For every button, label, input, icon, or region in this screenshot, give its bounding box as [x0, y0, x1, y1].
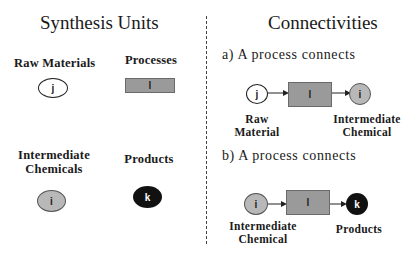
case-a-intermediate-node: i: [349, 83, 371, 105]
case-a-raw-material-label-line2: Material: [232, 126, 282, 139]
case-b-intermediate-label-line1: Intermediate: [226, 220, 300, 233]
synthesis-units-title: Synthesis Units: [40, 12, 159, 34]
case-b-products-label: Products: [334, 223, 384, 236]
case-a-process-node: l: [288, 82, 332, 107]
product-node: k: [133, 186, 162, 208]
raw-materials-label: Raw Materials: [14, 56, 88, 71]
case-a-arrow-1-icon: [268, 88, 290, 98]
process-node: l: [125, 78, 175, 93]
raw-material-symbol: j: [52, 83, 55, 94]
processes-label: Processes: [120, 53, 182, 68]
case-a-raw-material-node: j: [246, 84, 268, 104]
case-a-raw-material-label: Raw Material: [232, 113, 282, 139]
case-b-process-symbol: l: [307, 197, 310, 208]
case-a-process-symbol: l: [309, 89, 312, 100]
case-a-intermediate-symbol: i: [359, 89, 362, 100]
case-a-intermediate-label-line2: Chemical: [330, 126, 404, 139]
case-b-intermediate-label: Intermediate Chemical: [226, 220, 300, 246]
intermediate-chemicals-label-line2: Chemicals: [14, 162, 94, 176]
intermediate-chemicals-label-line1: Intermediate: [14, 148, 94, 162]
process-symbol: l: [149, 80, 152, 91]
case-b-process-node: l: [286, 190, 330, 215]
case-a-raw-material-symbol: j: [256, 89, 259, 100]
intermediate-chemical-node: i: [37, 190, 66, 212]
connectivities-title: Connectivities: [268, 12, 378, 34]
raw-material-node: j: [38, 78, 68, 98]
case-a-heading: a) A process connects: [222, 47, 356, 63]
case-a-raw-material-label-line1: Raw: [232, 113, 282, 126]
case-b-product-node: k: [346, 193, 368, 215]
case-a-intermediate-label: Intermediate Chemical: [330, 113, 404, 139]
intermediate-chemical-symbol: i: [50, 196, 53, 207]
product-symbol: k: [145, 192, 151, 203]
panel-divider: [206, 16, 207, 244]
intermediate-chemicals-label: Intermediate Chemicals: [14, 148, 94, 176]
case-b-intermediate-symbol: i: [255, 199, 258, 210]
case-b-product-symbol: k: [354, 199, 360, 210]
products-label: Products: [120, 152, 178, 167]
case-b-intermediate-node: i: [244, 193, 268, 215]
case-b-intermediate-label-line2: Chemical: [226, 233, 300, 246]
case-b-heading: b) A process connects: [222, 148, 356, 164]
case-b-arrow-1-icon: [268, 199, 288, 209]
case-a-intermediate-label-line1: Intermediate: [330, 113, 404, 126]
